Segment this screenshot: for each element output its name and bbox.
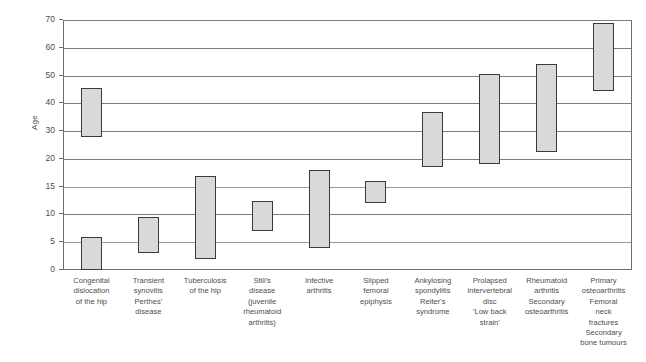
- range-bar: [81, 237, 102, 270]
- y-tick-mark-0: [59, 269, 63, 270]
- category-label-line: strain': [455, 318, 524, 328]
- category-label-line: arthritis): [228, 318, 297, 328]
- y-tick-label-40: 40: [29, 97, 55, 107]
- gridline-20: [64, 159, 631, 160]
- y-tick-label-60: 60: [29, 42, 55, 52]
- category-axis-labels: Congenitaldislocationof the hipTransient…: [63, 276, 632, 362]
- category-label-line: (juvenile: [228, 297, 297, 307]
- range-bar: [593, 23, 614, 91]
- y-tick-mark-50: [59, 75, 63, 76]
- y-tick-mark-15: [59, 186, 63, 187]
- category-label-line: bone tumours: [569, 338, 638, 348]
- gridline-10: [64, 214, 631, 215]
- y-tick-mark-5: [59, 241, 63, 242]
- category-label-line: neck: [569, 307, 638, 317]
- range-bar: [309, 170, 330, 248]
- y-tick-mark-60: [59, 47, 63, 48]
- category-label-line: osteoarthritis: [569, 286, 638, 296]
- category-label-line: Primary: [569, 276, 638, 286]
- y-axis-title: Age: [30, 103, 39, 143]
- range-bar: [81, 88, 102, 137]
- category-label-line: Perthes': [114, 297, 183, 307]
- y-tick-mark-30: [59, 130, 63, 131]
- y-tick-mark-70: [59, 19, 63, 20]
- y-tick-label-10: 10: [29, 208, 55, 218]
- category-label-10: PrimaryosteoarthritisFemoralneckfracture…: [569, 276, 638, 349]
- gridline-60: [64, 48, 631, 49]
- category-label-line: Secondary: [569, 328, 638, 338]
- gridline-15: [64, 187, 631, 188]
- y-tick-mark-40: [59, 102, 63, 103]
- range-bar: [536, 64, 557, 152]
- range-bar: [479, 74, 500, 164]
- gridline-70: [64, 20, 631, 21]
- y-tick-label-30: 30: [29, 125, 55, 135]
- y-tick-label-5: 5: [29, 236, 55, 246]
- age-range-chart: Age Congenitaldislocationof the hipTrans…: [0, 0, 646, 362]
- y-tick-mark-10: [59, 213, 63, 214]
- y-tick-label-70: 70: [29, 14, 55, 24]
- category-label-line: Femoral: [569, 297, 638, 307]
- range-bar: [422, 112, 443, 168]
- range-bar: [195, 176, 216, 259]
- y-tick-label-50: 50: [29, 70, 55, 80]
- y-tick-label-0: 0: [29, 264, 55, 274]
- category-label-line: fractures: [569, 318, 638, 328]
- category-label-line: rheumatoid: [228, 307, 297, 317]
- range-bar: [252, 201, 273, 232]
- range-bar: [138, 217, 159, 253]
- y-tick-mark-20: [59, 158, 63, 159]
- y-tick-label-15: 15: [29, 181, 55, 191]
- y-tick-label-20: 20: [29, 153, 55, 163]
- category-label-line: disease: [114, 307, 183, 317]
- range-bar: [365, 181, 386, 203]
